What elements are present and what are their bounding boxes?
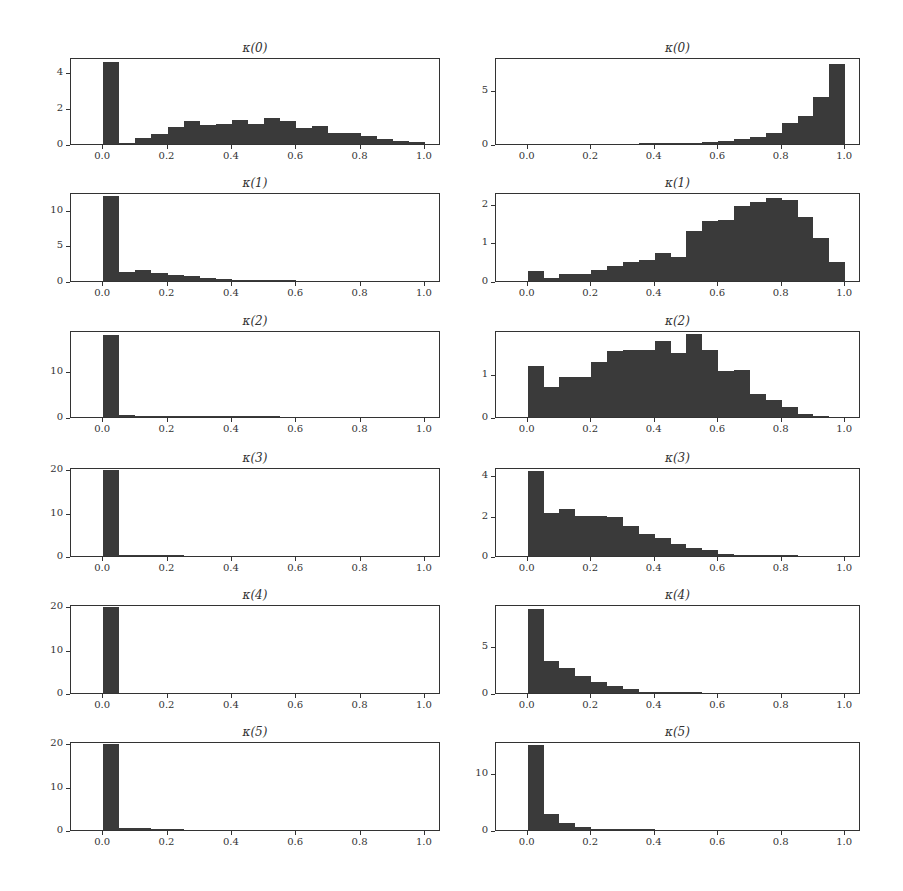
histogram-bar [623, 350, 639, 417]
x-tick-label: 1.0 [829, 562, 859, 573]
histogram-bar [607, 266, 623, 281]
x-tick-mark [844, 694, 845, 698]
x-tick-mark [102, 557, 103, 561]
x-tick-mark [295, 694, 296, 698]
x-tick-label: 0.0 [87, 423, 117, 434]
histogram-bar [248, 280, 264, 281]
histogram-bar [151, 273, 167, 281]
x-tick-label: 0.4 [216, 150, 246, 161]
x-tick-label: 0.8 [766, 699, 796, 710]
x-tick-mark [231, 282, 232, 286]
histogram-bar [168, 416, 184, 417]
histogram-bar [671, 257, 687, 281]
histogram-bar [829, 262, 845, 281]
histogram-bar [766, 198, 782, 281]
histogram-bar [655, 341, 671, 417]
histogram-bar [718, 141, 734, 144]
histogram-bar [119, 272, 135, 281]
histogram-bar [829, 64, 845, 144]
histogram-bar [639, 692, 655, 693]
x-tick-label: 0.0 [87, 150, 117, 161]
x-tick-mark [102, 282, 103, 286]
x-tick-mark [295, 557, 296, 561]
histogram-bar [528, 609, 544, 693]
y-tick-label: 2 [468, 510, 488, 521]
x-tick-mark [360, 145, 361, 149]
x-tick-mark [654, 694, 655, 698]
histogram-bar [782, 407, 798, 417]
y-tick-label: 0 [43, 550, 63, 561]
y-tick-label: 0 [43, 411, 63, 422]
histogram-bar [623, 689, 639, 693]
histogram-bar [702, 221, 718, 281]
x-tick-label: 0.2 [152, 562, 182, 573]
histogram-bar [296, 128, 312, 144]
histogram-bar [135, 270, 151, 281]
x-tick-mark [717, 145, 718, 149]
y-tick-label: 0 [468, 411, 488, 422]
histogram-bar [393, 141, 409, 144]
histogram-bar [607, 351, 623, 417]
x-tick-label: 0.8 [345, 423, 375, 434]
x-tick-mark [527, 831, 528, 835]
y-tick-label: 0 [468, 138, 488, 149]
histogram-bar [528, 471, 544, 556]
x-tick-label: 0.8 [345, 836, 375, 847]
y-tick-mark [66, 831, 70, 832]
x-tick-label: 0.0 [87, 562, 117, 573]
x-tick-mark [360, 282, 361, 286]
histogram-bar [184, 416, 200, 417]
histogram-bar [135, 416, 151, 417]
x-tick-mark [295, 831, 296, 835]
x-tick-label: 0.0 [512, 699, 542, 710]
x-tick-label: 0.8 [766, 562, 796, 573]
x-tick-label: 0.0 [87, 836, 117, 847]
x-tick-label: 1.0 [829, 423, 859, 434]
histogram-bar [200, 278, 216, 281]
histogram-bar [798, 116, 814, 144]
x-tick-label: 1.0 [829, 150, 859, 161]
y-tick-label: 10 [43, 781, 63, 792]
x-tick-label: 1.0 [409, 287, 439, 298]
y-tick-mark [66, 514, 70, 515]
y-tick-label: 0 [468, 687, 488, 698]
x-tick-mark [717, 831, 718, 835]
x-tick-mark [102, 831, 103, 835]
x-tick-mark [167, 145, 168, 149]
histogram-bar [361, 136, 377, 144]
histogram-bar [544, 513, 560, 556]
x-tick-mark [360, 557, 361, 561]
x-tick-mark [360, 418, 361, 422]
panel-title: κ(4) [70, 588, 440, 602]
histogram-bar [559, 274, 575, 281]
y-tick-mark [491, 375, 495, 376]
x-tick-label: 0.6 [280, 836, 310, 847]
x-tick-label: 0.8 [766, 423, 796, 434]
panel-title: κ(0) [495, 41, 860, 55]
histogram-bar [734, 139, 750, 144]
histogram-bar [559, 377, 575, 417]
histogram-bar [591, 682, 607, 693]
histogram-axes [495, 742, 860, 831]
x-tick-label: 0.4 [639, 699, 669, 710]
histogram-bar [575, 377, 591, 417]
histogram-bar [232, 120, 248, 144]
histogram-bar [248, 416, 264, 417]
histogram-bar [671, 353, 687, 417]
histogram-bar [103, 62, 119, 144]
panel-title: κ(4) [495, 588, 860, 602]
x-tick-label: 1.0 [409, 562, 439, 573]
x-tick-label: 0.6 [280, 423, 310, 434]
x-tick-label: 0.2 [152, 423, 182, 434]
x-tick-label: 0.4 [639, 836, 669, 847]
y-tick-label: 1 [468, 236, 488, 247]
histogram-axes [495, 193, 860, 282]
histogram-bar [798, 217, 814, 281]
x-tick-mark [844, 557, 845, 561]
histogram-bar [119, 143, 135, 144]
histogram-bar [119, 415, 135, 417]
histogram-bar [264, 118, 280, 144]
x-tick-mark [844, 145, 845, 149]
histogram-bar [798, 414, 814, 417]
x-tick-label: 0.2 [152, 836, 182, 847]
